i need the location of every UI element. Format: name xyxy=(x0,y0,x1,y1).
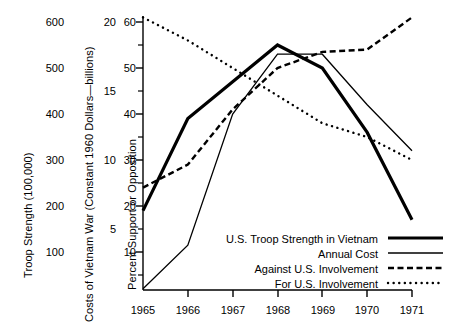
data-series-layer xyxy=(143,17,412,288)
series-line-against-u-s-involvement xyxy=(143,17,412,187)
chart-figure: Troop Strength (100,000) Costs of Vietna… xyxy=(0,0,453,332)
x-axis-ticks xyxy=(188,290,412,297)
series-line-annual-cost xyxy=(143,54,412,289)
plot-canvas xyxy=(0,0,453,332)
series-line-u-s-troop-strength-in-vietnam xyxy=(143,45,412,220)
